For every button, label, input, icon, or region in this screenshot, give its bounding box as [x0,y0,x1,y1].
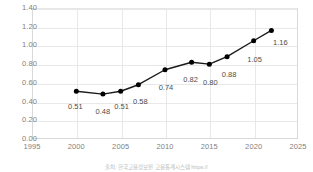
data-point-marker [74,89,79,94]
data-point-marker [251,38,256,43]
data-point-marker [225,54,230,59]
data-point-marker [189,60,194,65]
data-point-label: 1.16 [265,39,295,47]
data-point-label: 0.74 [151,84,181,92]
data-point-label: 0.80 [195,79,225,87]
data-point-marker [118,89,123,94]
data-point-label: 1.05 [240,56,270,64]
data-point-label: 0.58 [125,98,155,106]
line-chart: 0.000.200.400.600.801.001.201.40 1995200… [0,0,313,172]
data-point-marker [100,92,105,97]
data-point-marker [207,62,212,67]
data-point-marker [136,82,141,87]
source-caption: 출처: 한국고용정보원 고용통계시스템 https:// [0,163,313,171]
data-point-marker [269,28,274,33]
data-point-label: 0.88 [214,71,244,79]
data-point-label: 0.51 [60,103,90,111]
data-point-marker [163,67,168,72]
